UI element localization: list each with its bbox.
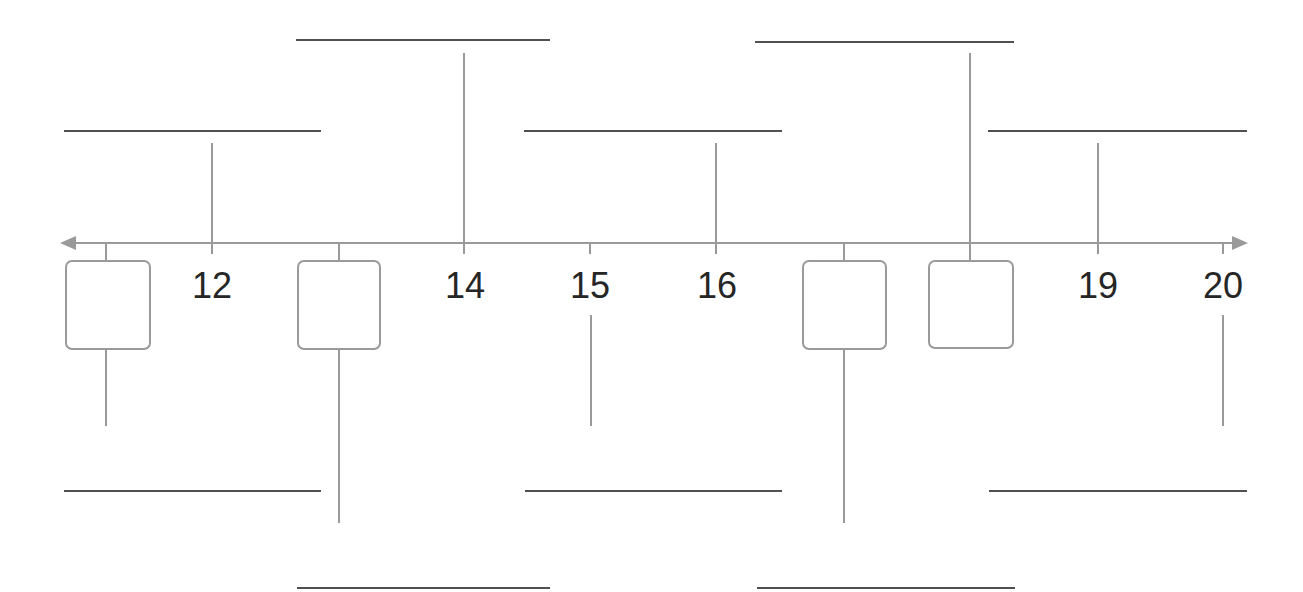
stem-15 [590, 315, 592, 426]
stem-16 [715, 143, 717, 254]
stem-18 [969, 53, 971, 260]
answer-line-18[interactable] [755, 41, 1014, 43]
stem-20 [1222, 315, 1224, 426]
answer-line-17[interactable] [757, 587, 1015, 589]
tick-label-15: 15 [550, 266, 630, 306]
stem-17 [843, 350, 845, 523]
answer-line-13[interactable] [297, 587, 550, 589]
answer-line-16[interactable] [524, 130, 782, 132]
stem-13 [338, 350, 340, 523]
stem-14 [463, 53, 465, 254]
answer-box-13[interactable] [297, 260, 381, 350]
timeline-worksheet: 12 14 15 16 19 20 [0, 0, 1303, 592]
answer-box-18[interactable] [928, 260, 1014, 349]
stem-12 [211, 143, 213, 254]
tick-label-20: 20 [1183, 266, 1263, 306]
stem-11 [105, 350, 107, 426]
tick-17 [843, 243, 845, 260]
answer-line-15[interactable] [525, 490, 782, 492]
tick-20 [1222, 243, 1224, 254]
stem-19 [1097, 143, 1099, 254]
answer-line-20[interactable] [989, 490, 1247, 492]
answer-line-11[interactable] [64, 490, 321, 492]
answer-box-11[interactable] [65, 260, 151, 350]
tick-13 [338, 243, 340, 260]
answer-line-14[interactable] [296, 39, 550, 41]
tick-15 [589, 243, 591, 254]
arrow-right-icon [1232, 236, 1248, 250]
timeline-axis [70, 242, 1234, 244]
tick-label-12: 12 [172, 266, 252, 306]
tick-label-19: 19 [1058, 266, 1138, 306]
arrow-left-icon [60, 236, 76, 250]
answer-box-17[interactable] [802, 260, 887, 350]
answer-line-12[interactable] [64, 130, 321, 132]
tick-label-16: 16 [677, 266, 757, 306]
answer-line-19[interactable] [988, 130, 1247, 132]
tick-label-14: 14 [425, 266, 505, 306]
tick-11 [105, 243, 107, 260]
